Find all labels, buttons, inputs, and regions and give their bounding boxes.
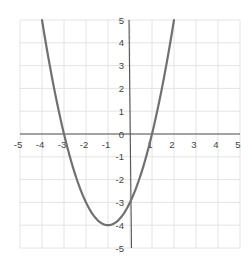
y-tick-label: 0 [119, 129, 124, 140]
x-tick-label: 5 [235, 139, 240, 150]
x-tick-label: -1 [102, 139, 110, 150]
y-tick-label: 3 [119, 60, 124, 71]
y-tick-label: -3 [116, 197, 124, 208]
x-tick-label: -5 [14, 139, 22, 150]
y-tick-label: 5 [119, 15, 124, 26]
x-tick-label: -2 [80, 139, 88, 150]
x-tick-label: 2 [169, 139, 174, 150]
y-tick-label: -5 [116, 243, 124, 254]
x-tick-label: 3 [191, 139, 196, 150]
y-tick-label: -2 [116, 174, 124, 185]
x-tick-label: 4 [213, 139, 218, 150]
x-tick-label: -4 [36, 139, 44, 150]
y-tick-label: 2 [119, 83, 124, 94]
x-tick-labels: -5-4-3-2-112345 [14, 139, 241, 150]
y-tick-label: 4 [119, 37, 124, 48]
parabola-chart: -5-4-3-2-112345 543210-1-2-3-4-5 [0, 0, 252, 262]
y-tick-label: 1 [119, 106, 124, 117]
y-tick-label: -1 [116, 151, 124, 162]
